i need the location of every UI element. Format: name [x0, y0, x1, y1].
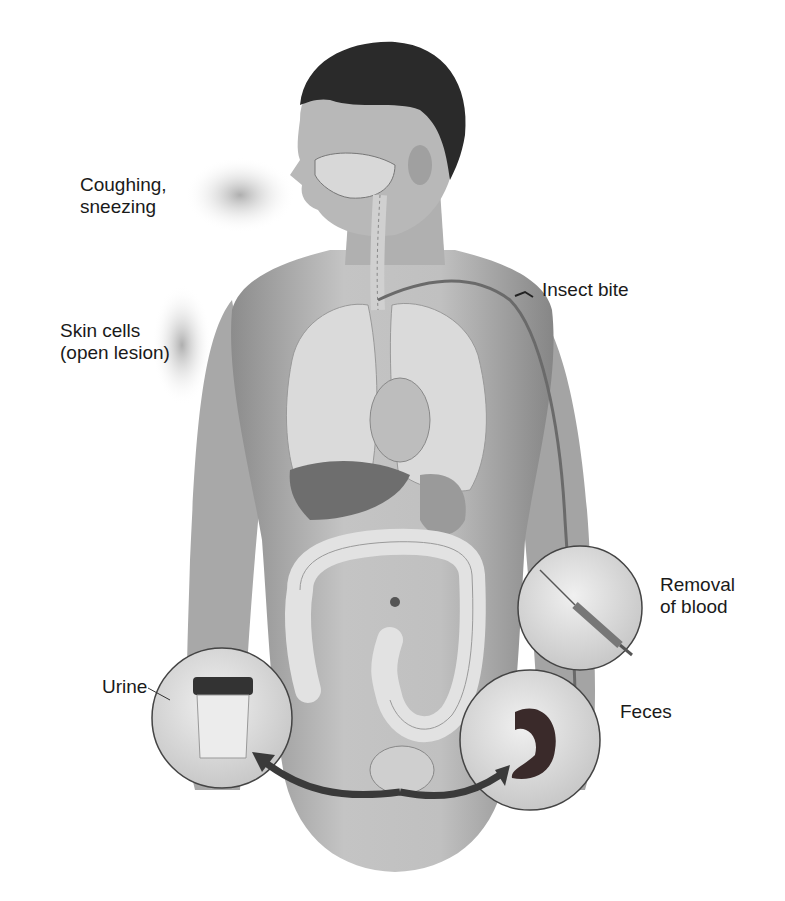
urine-cup-lid: [193, 677, 253, 695]
label-insect-bite: Insect bite: [542, 279, 629, 301]
label-coughing-sneezing: Coughing, sneezing: [80, 174, 167, 218]
bladder: [370, 746, 434, 794]
label-urine: Urine: [102, 676, 147, 698]
label-feces: Feces: [620, 701, 672, 723]
label-skin-cells: Skin cells (open lesion): [60, 320, 170, 364]
navel: [390, 597, 400, 607]
heart: [370, 378, 430, 462]
cough-spray: [185, 157, 295, 233]
label-removal-of-blood: Removal of blood: [660, 574, 735, 618]
body-illustration: [0, 0, 785, 901]
ear: [408, 145, 432, 185]
urine-cup: [197, 695, 249, 758]
specimen-sources-diagram: Coughing, sneezing Skin cells (open lesi…: [0, 0, 785, 901]
